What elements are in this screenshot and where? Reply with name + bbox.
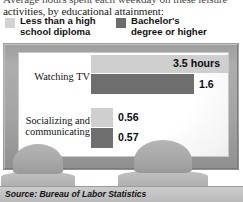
category-label-socializing: Socializing and communicating (25, 115, 90, 138)
viewer-head (13, 144, 63, 174)
bar-watching-tv-bachelors (91, 74, 194, 94)
viewer-head (134, 140, 192, 173)
legend: Less than a high school diploma Bachelor… (4, 17, 239, 42)
source-band: Source: Bureau of Labor Statistics (0, 186, 243, 202)
dark-gray-swatch-icon (116, 18, 126, 28)
leisure-hours-infographic: Average hours spent each weekday on thes… (0, 0, 243, 202)
value-label-socializing-dark: 0.57 (118, 131, 139, 143)
viewer-silhouette-icon (118, 146, 208, 188)
bar-socializing-bachelors (91, 128, 113, 148)
deck-line-1: Average hours spent each weekday on thes… (3, 0, 241, 6)
legend-item-label: Bachelor's degree or higher (131, 15, 207, 37)
legend-item-label: Less than a high school diploma (20, 15, 96, 37)
viewer-silhouette-icon (1, 152, 75, 188)
source-attribution: Source: Bureau of Labor Statistics (5, 189, 146, 199)
chart-plot-area: Watching TV 3.5 hours 1.6 Socializing an… (18, 52, 229, 157)
light-gray-swatch-icon (5, 18, 15, 28)
value-label-watching-tv-dark: 1.6 (199, 78, 214, 90)
bar-group-watching-tv: Watching TV 3.5 hours 1.6 (19, 53, 228, 105)
value-label-watching-tv-light: 3.5 hours (173, 57, 220, 69)
value-label-socializing-light: 0.56 (118, 111, 139, 123)
bar-socializing-less-than-high-school (91, 108, 113, 127)
category-label-watching-tv: Watching TV (34, 71, 90, 82)
